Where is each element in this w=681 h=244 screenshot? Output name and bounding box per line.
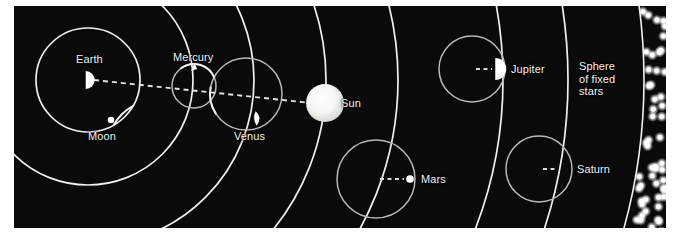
star: [646, 138, 651, 143]
star: [654, 68, 659, 73]
star: [651, 107, 656, 112]
star: [659, 48, 664, 53]
star: [644, 50, 649, 55]
cosmos-diagram: EarthMoonMercuryVenusSunMarsJupiterSatur…: [14, 6, 666, 228]
star: [654, 181, 659, 186]
figure-canvas: EarthMoonMercuryVenusSunMarsJupiterSatur…: [0, 0, 681, 244]
star: [660, 103, 665, 108]
star: [661, 19, 666, 24]
star: [637, 174, 642, 179]
star: [656, 204, 661, 209]
star: [641, 9, 646, 14]
star: [639, 218, 644, 223]
mars-body: [406, 175, 414, 183]
star: [647, 84, 652, 89]
star: [657, 219, 662, 224]
star: [652, 97, 657, 102]
mars-disc: [406, 175, 414, 183]
sun-disc: [306, 84, 344, 122]
star: [650, 174, 655, 179]
star: [650, 114, 655, 119]
star: [646, 67, 651, 72]
star: [637, 186, 642, 191]
star: [640, 202, 645, 207]
moon-disc: [108, 117, 115, 124]
orbit-layer: [14, 6, 666, 228]
moon-body: [108, 117, 115, 124]
star: [659, 114, 664, 119]
sun-body: [306, 84, 344, 122]
star: [658, 135, 663, 140]
star: [661, 34, 666, 39]
star: [653, 164, 658, 169]
